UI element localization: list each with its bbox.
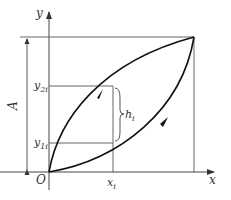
hi-brace [115,88,124,141]
y1i-label: y1i [33,136,48,151]
up-arrow-icon [160,117,168,127]
xi-label: xi [107,176,116,191]
loading-curve [49,37,194,172]
origin-label: O [36,173,46,187]
unloading-curve [49,37,194,172]
amplitude-label: A [6,101,20,111]
down-arrow-icon [97,89,103,99]
y-axis-label: y [35,6,43,20]
x-axis-label: x [209,173,216,187]
hysteresis-diagram: y x O A y2i y1i xi hi [0,0,231,200]
y2i-label: y2i [33,79,48,94]
hi-label: hi [125,108,135,123]
